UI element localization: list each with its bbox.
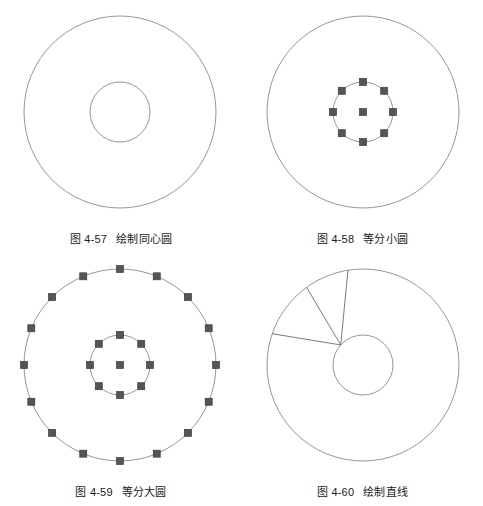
- figure-grid: 图 4-57绘制同心圆 图 4-58等分小圆 图 4-59等分大圆 图 4-60…: [0, 0, 483, 506]
- grip-outer-13: [213, 362, 220, 369]
- grip-inner-4: [95, 383, 102, 390]
- grip-inner-2: [95, 340, 102, 347]
- grip-inner-7: [390, 109, 397, 116]
- grip-outer-6: [28, 398, 35, 405]
- figure-4-60-number: 图 4-60: [317, 486, 354, 498]
- grip-center: [117, 362, 124, 369]
- grip-outer-1: [117, 266, 124, 273]
- grip-outer-11: [184, 429, 191, 436]
- grip-inner-1: [360, 79, 367, 86]
- grip-outer-10: [153, 450, 160, 457]
- figure-4-58-drawing: [242, 0, 483, 228]
- figure-4-59-title: 等分大圆: [122, 486, 167, 498]
- grip-outer-14: [205, 325, 212, 332]
- grip-outer-7: [49, 429, 56, 436]
- grip-outer-5: [21, 362, 28, 369]
- figure-4-60-drawing: [242, 253, 483, 481]
- figure-4-57-drawing: [0, 0, 242, 228]
- figure-4-58-number: 图 4-58: [317, 233, 354, 245]
- figure-4-58-title: 等分小圆: [363, 233, 408, 245]
- figure-4-58: 图 4-58等分小圆: [242, 0, 483, 253]
- grip-inner-8: [381, 87, 388, 94]
- figure-4-57-caption: 图 4-57绘制同心圆: [70, 230, 172, 246]
- figure-4-60-caption: 图 4-60绘制直线: [317, 483, 408, 499]
- grip-outer-16: [153, 273, 160, 280]
- grip-inner-6: [138, 383, 145, 390]
- figure-4-57: 图 4-57绘制同心圆: [0, 0, 242, 253]
- figure-4-57-number: 图 4-57: [70, 233, 107, 245]
- grip-center: [360, 109, 367, 116]
- figure-4-59-drawing: [0, 253, 242, 481]
- grip-inner-4: [338, 130, 345, 137]
- grip-inner-8: [138, 340, 145, 347]
- radial-line-2: [307, 287, 341, 345]
- figure-4-57-title: 绘制同心圆: [116, 233, 172, 245]
- figure-4-59-caption: 图 4-59等分大圆: [75, 483, 166, 499]
- figure-4-59-number: 图 4-59: [75, 486, 112, 498]
- grip-outer-9: [117, 458, 124, 465]
- outer-circle: [24, 16, 216, 208]
- grip-outer-8: [80, 450, 87, 457]
- grip-outer-15: [184, 294, 191, 301]
- grip-outer-2: [80, 273, 87, 280]
- grip-inner-6: [381, 130, 388, 137]
- grip-inner-3: [87, 362, 94, 369]
- figure-4-59: 图 4-59等分大圆: [0, 253, 242, 506]
- figure-4-60-title: 绘制直线: [363, 486, 408, 498]
- radial-line-1: [341, 270, 348, 345]
- figure-4-60: 图 4-60绘制直线: [242, 253, 483, 506]
- radial-line-3: [272, 334, 340, 345]
- grip-inner-5: [360, 139, 367, 146]
- grip-inner-3: [330, 109, 337, 116]
- grip-outer-4: [28, 325, 35, 332]
- grip-inner-2: [338, 87, 345, 94]
- inner-circle: [90, 82, 150, 142]
- grip-outer-12: [205, 398, 212, 405]
- grip-inner-1: [117, 332, 124, 339]
- figure-4-58-caption: 图 4-58等分小圆: [317, 230, 408, 246]
- grip-inner-7: [147, 362, 154, 369]
- outer-circle: [267, 269, 459, 461]
- grip-inner-5: [117, 392, 124, 399]
- grip-outer-3: [49, 294, 56, 301]
- inner-circle: [333, 335, 393, 395]
